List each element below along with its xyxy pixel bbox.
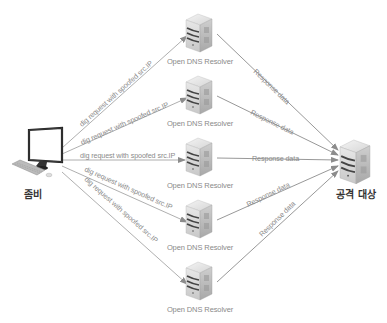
zombie-label: 좀비	[24, 186, 42, 201]
response-label-5: Response data	[257, 199, 297, 238]
target-server-icon	[340, 140, 370, 184]
resolver-server-3	[186, 138, 212, 176]
resolver-label-5: Open DNS Resolver	[167, 305, 233, 314]
dns-amplification-diagram: dig request with spoofed src.IP dig requ…	[0, 0, 387, 323]
resolver-label-1: Open DNS Resolver	[167, 57, 233, 66]
request-label-3: dig request with spoofed src.IP	[80, 151, 175, 160]
resolver-label-3: Open DNS Resolver	[167, 181, 233, 190]
resolver-label-4: Open DNS Resolver	[167, 243, 233, 252]
desktop-computer-icon	[12, 128, 62, 177]
response-label-2: Response data	[249, 108, 295, 137]
resolver-server-2	[186, 76, 212, 114]
response-label-3: Response data	[252, 154, 299, 163]
resolver-server-5	[186, 262, 212, 300]
mouse-icon	[46, 173, 52, 177]
response-label-1: Response data	[252, 67, 292, 106]
resolver-server-4	[186, 200, 212, 238]
resolver-server-1	[186, 14, 212, 52]
target-label: 공격 대상	[336, 186, 375, 201]
resolver-label-2: Open DNS Resolver	[167, 119, 233, 128]
